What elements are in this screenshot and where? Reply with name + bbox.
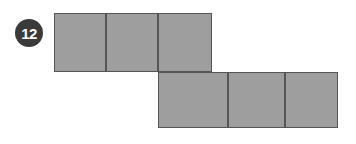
cell-bottom-3 [286, 73, 338, 128]
cell-bottom-2 [229, 73, 285, 128]
hexomino-net-figure [0, 0, 356, 144]
cell-top-2 [107, 14, 158, 72]
cell-bottom-1 [159, 73, 228, 128]
figure-canvas: 12 [0, 0, 356, 144]
cell-top-1 [55, 14, 106, 72]
cell-top-3 [159, 14, 212, 72]
